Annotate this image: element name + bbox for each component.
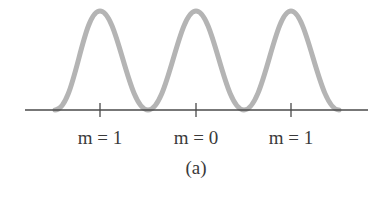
label-m1-left: m = 1 <box>78 127 123 148</box>
interference-pattern-diagram: m = 1 m = 0 m = 1 (a) <box>0 0 375 206</box>
label-m0: m = 0 <box>174 127 219 148</box>
figure-caption: (a) <box>185 157 206 179</box>
label-m1-right: m = 1 <box>269 127 314 148</box>
intensity-curve <box>55 11 339 110</box>
